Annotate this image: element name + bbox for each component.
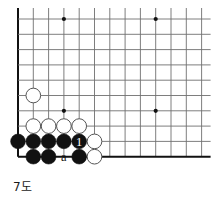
black-stone[interactable] — [26, 134, 41, 149]
white-stone[interactable] — [87, 149, 102, 164]
white-stone[interactable] — [57, 119, 72, 134]
stone-disc — [57, 119, 72, 134]
white-stone[interactable] — [26, 119, 41, 134]
black-stone[interactable] — [11, 134, 26, 149]
white-stone[interactable] — [26, 88, 41, 103]
go-board[interactable]: 1 a — [0, 0, 216, 207]
star-point — [62, 109, 66, 113]
stone-disc — [87, 149, 102, 164]
stone-disc — [72, 119, 87, 134]
point-label-a: a — [61, 150, 67, 164]
figure-caption: 7도 — [13, 180, 32, 194]
point-labels-layer: a — [61, 150, 67, 164]
stone-disc — [26, 88, 41, 103]
black-stone[interactable] — [72, 149, 87, 164]
black-stone[interactable] — [57, 134, 72, 149]
star-point — [154, 109, 158, 113]
white-stone[interactable] — [72, 119, 87, 134]
stone-disc — [57, 134, 72, 149]
stone-disc — [11, 134, 26, 149]
go-diagram: 1 a 7도 — [0, 0, 216, 207]
star-point — [154, 17, 158, 21]
stone-disc — [41, 134, 56, 149]
stone-disc — [26, 134, 41, 149]
white-stone[interactable] — [41, 119, 56, 134]
stone-disc — [72, 149, 87, 164]
black-stone[interactable] — [41, 149, 56, 164]
black-stone[interactable]: 1 — [72, 134, 87, 149]
stone-disc — [26, 149, 41, 164]
black-stone[interactable] — [26, 149, 41, 164]
star-point — [62, 17, 66, 21]
black-stone[interactable] — [41, 134, 56, 149]
stone-disc — [26, 119, 41, 134]
stone-disc — [87, 134, 102, 149]
stone-disc — [41, 149, 56, 164]
white-stone[interactable] — [87, 134, 102, 149]
move-number-label: 1 — [76, 135, 82, 149]
stone-disc — [41, 119, 56, 134]
